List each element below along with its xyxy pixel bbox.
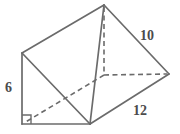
edge-label-height: 6 [5, 81, 12, 95]
prism-diagram [0, 0, 180, 134]
triangular-prism-figure: 6 10 12 [0, 0, 180, 134]
edge-label-slant: 10 [140, 29, 154, 43]
edge-label-length: 12 [133, 104, 147, 118]
